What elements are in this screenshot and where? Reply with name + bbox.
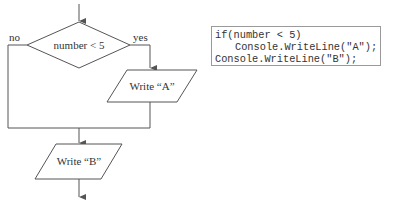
code-snippet: if(number < 5)Console.WriteLine("A");Con…: [211, 26, 381, 66]
process-a-label: Write “A”: [129, 80, 174, 92]
flowchart: number < 5 no yes Write “A” Write “B”: [0, 0, 210, 204]
code-line-write-b: Console.WriteLine("B");: [215, 53, 377, 65]
process-b-label: Write “B”: [57, 155, 102, 167]
no-label: no: [9, 31, 21, 43]
yes-label: yes: [133, 31, 148, 43]
code-line-if: if(number < 5): [215, 29, 377, 41]
code-line-write-a: Console.WriteLine("A");: [215, 41, 377, 53]
yes-branch-line: [130, 45, 150, 68]
decision-label: number < 5: [54, 39, 105, 51]
